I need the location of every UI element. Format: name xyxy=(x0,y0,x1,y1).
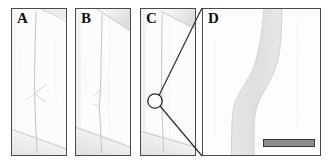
scale-bar xyxy=(263,139,315,147)
panel-d[interactable]: D xyxy=(202,8,321,156)
panel-a[interactable]: A xyxy=(11,8,67,156)
panel-b-micrograph xyxy=(76,9,130,155)
figure-container: A xyxy=(0,0,331,164)
panel-c-label: C xyxy=(146,11,157,26)
panel-a-micrograph xyxy=(12,9,66,155)
panel-d-micrograph xyxy=(203,9,320,155)
panel-a-label: A xyxy=(17,11,28,26)
panel-d-label: D xyxy=(208,11,219,26)
panel-c-micrograph xyxy=(141,9,195,155)
panel-b-label: B xyxy=(81,11,91,26)
panel-b[interactable]: B xyxy=(75,8,131,156)
panel-c[interactable]: C xyxy=(140,8,196,156)
